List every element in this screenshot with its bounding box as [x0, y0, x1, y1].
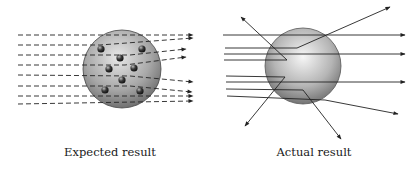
electron: [138, 45, 145, 52]
electron: [136, 87, 143, 94]
electron: [118, 76, 125, 83]
expected-result-caption: Expected result: [64, 145, 156, 159]
electron: [116, 54, 123, 61]
actual-result-caption: Actual result: [277, 145, 352, 159]
electron: [101, 86, 108, 93]
electron: [105, 65, 112, 72]
electron: [97, 45, 104, 52]
actual-result-panel: [223, 7, 405, 139]
nuclear-atom: [265, 28, 341, 104]
rutherford-scattering-diagram: [0, 0, 419, 176]
expected-result-panel: [18, 30, 193, 108]
electron: [130, 64, 137, 71]
